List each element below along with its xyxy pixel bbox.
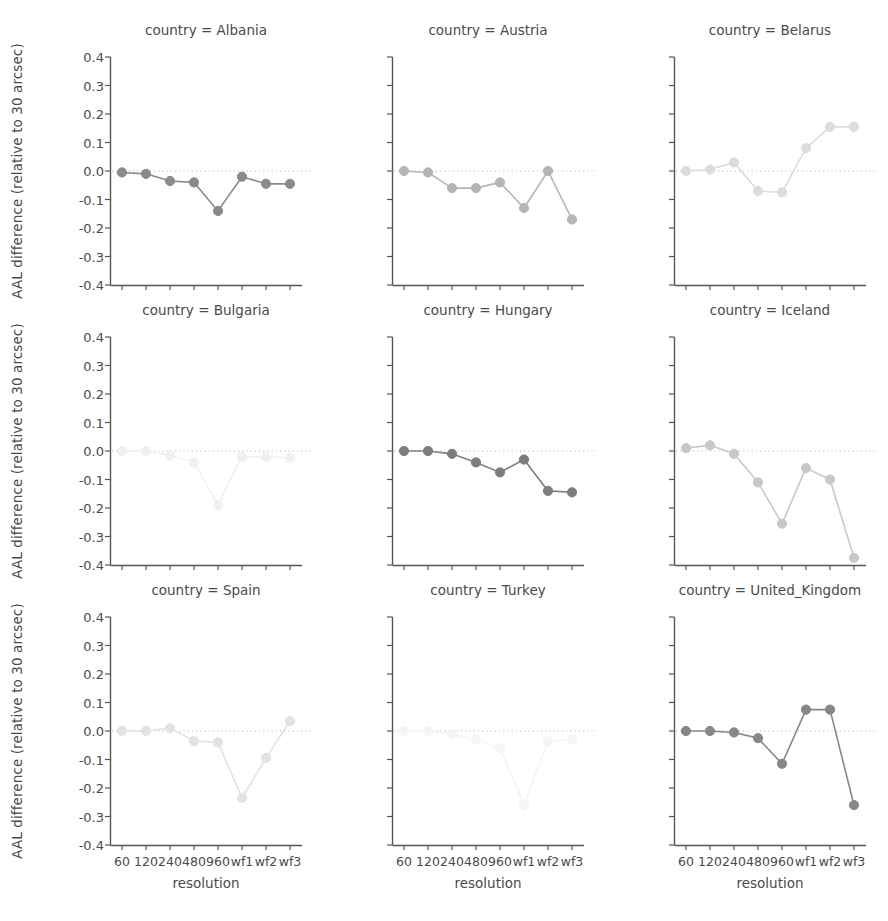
data-point-marker (189, 178, 198, 187)
facet-panel-spain: country = Spain0.40.30.20.10.0-0.1-0.2-0… (34, 582, 316, 872)
plot-canvas (674, 617, 886, 847)
plot-area (392, 57, 584, 285)
data-point-marker (567, 735, 576, 744)
x-tick-label: 960 (206, 854, 230, 869)
data-point-marker (141, 169, 150, 178)
y-axis-label: AAL difference (relative to 30 arcsec) (0, 617, 34, 845)
y-tick-label: -0.4 (79, 838, 104, 853)
data-point-marker (567, 215, 576, 224)
y-tick-label: 0.0 (83, 444, 104, 459)
data-point-marker (681, 444, 690, 453)
data-point-marker (237, 793, 246, 802)
y-tick-label: 0.4 (83, 610, 104, 625)
data-point-marker (165, 176, 174, 185)
data-point-marker (141, 726, 150, 735)
y-tick-label: 0.1 (83, 135, 104, 150)
y-axis-label-text: AAL difference (relative to 30 arcsec) (9, 603, 25, 859)
data-point-marker (213, 501, 222, 510)
data-point-marker (447, 729, 456, 738)
y-tick-label: 0.1 (83, 695, 104, 710)
data-point-marker (753, 734, 762, 743)
facet-panel-united_kingdom: country = United_Kingdom60120240480960wf… (598, 582, 880, 872)
data-point-marker (849, 553, 858, 562)
data-point-marker (285, 179, 294, 188)
y-tick-label: -0.3 (79, 809, 104, 824)
x-tick-label: wf1 (795, 854, 818, 869)
x-tick-label: 60 (396, 854, 412, 869)
x-tick-label: 960 (488, 854, 512, 869)
facet-grid-figure: AAL difference (relative to 30 arcsec)AA… (0, 0, 888, 921)
facet-panel-bulgaria: country = Bulgaria0.40.30.20.10.0-0.1-0.… (34, 302, 316, 592)
x-tick-label: 480 (746, 854, 770, 869)
data-point-marker (165, 724, 174, 733)
x-tick-label: 120 (134, 854, 158, 869)
x-tick-label: 240 (158, 854, 182, 869)
x-tick-label: 240 (722, 854, 746, 869)
plot-canvas (392, 617, 604, 847)
data-point-marker (681, 726, 690, 735)
x-tick-label: 120 (416, 854, 440, 869)
y-tick-label: -0.4 (79, 278, 104, 293)
x-tick-label: wf2 (255, 854, 278, 869)
panel-title: country = Turkey (392, 582, 584, 598)
data-point-marker (237, 452, 246, 461)
plot-area: 60120240480960wf1wf2wf3resolution (674, 617, 866, 845)
y-tick-label: -0.1 (79, 472, 104, 487)
x-tick-label: 240 (440, 854, 464, 869)
panel-title: country = Austria (392, 22, 584, 38)
data-point-marker (729, 158, 738, 167)
y-axis-label-text: AAL difference (relative to 30 arcsec) (9, 43, 25, 299)
series-line (686, 445, 854, 558)
data-point-marker (519, 455, 528, 464)
data-point-marker (543, 486, 552, 495)
plot-canvas (674, 337, 886, 567)
data-point-marker (519, 203, 528, 212)
data-point-marker (117, 726, 126, 735)
y-axis-label: AAL difference (relative to 30 arcsec) (0, 57, 34, 285)
facet-panel-albania: country = Albania0.40.30.20.10.0-0.1-0.2… (34, 22, 316, 312)
series-line (686, 710, 854, 805)
data-point-marker (519, 801, 528, 810)
plot-area: 60120240480960wf1wf2wf3resolution (392, 617, 584, 845)
x-tick-label: wf3 (279, 854, 302, 869)
data-point-marker (777, 759, 786, 768)
panel-title: country = Iceland (674, 302, 866, 318)
data-point-marker (447, 449, 456, 458)
plot-canvas (674, 57, 886, 287)
data-point-marker (423, 168, 432, 177)
data-point-marker (213, 206, 222, 215)
data-point-marker (801, 144, 810, 153)
data-point-marker (447, 184, 456, 193)
plot-area (392, 337, 584, 565)
data-point-marker (423, 446, 432, 455)
x-tick-label: wf2 (819, 854, 842, 869)
series-line (686, 127, 854, 193)
facet-panel-hungary: country = Hungary (316, 302, 598, 592)
data-point-marker (705, 165, 714, 174)
data-point-marker (801, 705, 810, 714)
y-tick-label: 0.2 (83, 667, 104, 682)
y-tick-label: -0.1 (79, 192, 104, 207)
data-point-marker (471, 458, 480, 467)
y-tick-label: 0.4 (83, 50, 104, 65)
data-point-marker (285, 716, 294, 725)
y-tick-label: 0.1 (83, 415, 104, 430)
data-point-marker (705, 726, 714, 735)
data-point-marker (141, 446, 150, 455)
plot-canvas (110, 57, 322, 287)
x-axis-title: resolution (110, 875, 302, 891)
data-point-marker (471, 184, 480, 193)
data-point-marker (849, 801, 858, 810)
data-point-marker (543, 166, 552, 175)
data-point-marker (753, 478, 762, 487)
panel-title: country = Belarus (674, 22, 866, 38)
x-tick-label: wf2 (537, 854, 560, 869)
data-point-marker (399, 446, 408, 455)
data-point-marker (189, 736, 198, 745)
facet-panel-austria: country = Austria (316, 22, 598, 312)
x-tick-label: wf3 (843, 854, 866, 869)
data-point-marker (681, 166, 690, 175)
data-point-marker (165, 451, 174, 460)
facet-panel-turkey: country = Turkey60120240480960wf1wf2wf3r… (316, 582, 598, 872)
data-point-marker (261, 179, 270, 188)
